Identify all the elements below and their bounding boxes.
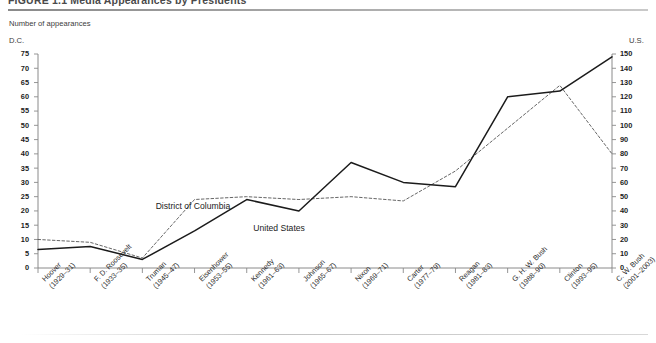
left-axis-tick-label: 70 xyxy=(5,65,29,72)
right-axis-tick-label: 120 xyxy=(620,93,646,100)
right-axis-tick-label: 90 xyxy=(620,136,646,143)
series-annotation: District of Columbia xyxy=(156,201,231,211)
left-axis-tick-label: 5 xyxy=(5,250,29,257)
right-axis-tick-label: 70 xyxy=(620,165,646,172)
left-axis-tick-label: 15 xyxy=(5,222,29,229)
left-axis-tick-label: 55 xyxy=(5,107,29,114)
series-line-district-of-columbia xyxy=(38,85,612,258)
right-axis-tick-label: 130 xyxy=(620,79,646,86)
right-axis-tick-label: 30 xyxy=(620,222,646,229)
right-axis-tick-label: 40 xyxy=(620,207,646,214)
series-annotation: United States xyxy=(253,223,305,233)
right-axis-tick-label: 150 xyxy=(620,50,646,57)
left-axis-tick-label: 75 xyxy=(5,50,29,57)
left-axis-tick-label: 45 xyxy=(5,136,29,143)
left-axis-tick-label: 50 xyxy=(5,122,29,129)
right-axis-tick-label: 20 xyxy=(620,236,646,243)
figure-panel: FIGURE 1.1 Media Appearances by Presiden… xyxy=(0,0,656,343)
left-axis-tick-label: 35 xyxy=(5,165,29,172)
left-axis-tick-label: 20 xyxy=(5,207,29,214)
right-axis-tick-label: 60 xyxy=(620,179,646,186)
series-line-united-states xyxy=(38,57,612,260)
left-axis-tick-label: 60 xyxy=(5,93,29,100)
right-axis-tick-label: 100 xyxy=(620,122,646,129)
left-axis-tick-label: 40 xyxy=(5,150,29,157)
chart-plot-area: 0510152025303540455055606570750102030405… xyxy=(0,0,656,343)
right-axis-tick-label: 110 xyxy=(620,107,646,114)
right-axis-tick-label: 140 xyxy=(620,65,646,72)
right-axis-tick-label: 50 xyxy=(620,193,646,200)
left-axis-tick-label: 10 xyxy=(5,236,29,243)
left-axis-tick-label: 65 xyxy=(5,79,29,86)
left-axis-tick-label: 30 xyxy=(5,179,29,186)
left-axis-tick-label: 0 xyxy=(5,264,29,271)
left-axis-tick-label: 25 xyxy=(5,193,29,200)
bottom-rule xyxy=(8,334,648,335)
right-axis-tick-label: 80 xyxy=(620,150,646,157)
chart-svg xyxy=(0,0,656,343)
